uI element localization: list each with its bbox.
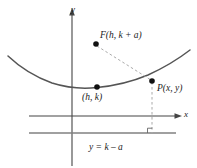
parabola-figure: y x F(h, k + a) P(x, y) (h, k) y = k – a: [0, 0, 197, 168]
vertex-point-marker: [94, 84, 100, 90]
x-axis-label: x: [184, 110, 188, 119]
focus-label: F(h, k + a): [100, 31, 142, 41]
vertex-label: (h, k): [82, 93, 102, 103]
point-p-marker: [149, 78, 155, 84]
focal-radius-dashed-line: [97, 46, 151, 80]
directrix-label: y = k – a: [89, 143, 123, 153]
point-p-label: P(x, y): [157, 84, 182, 94]
x-axis-arrow-icon: [175, 113, 183, 119]
focus-point-marker: [93, 41, 99, 47]
y-axis-label: y: [71, 5, 75, 14]
x-axis: [29, 113, 182, 119]
